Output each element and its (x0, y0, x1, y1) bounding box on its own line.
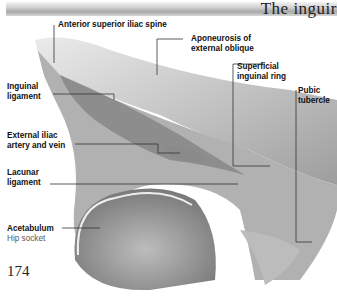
label-superficial-inguinal-ring: Superficial inguinal ring (237, 62, 286, 81)
label-lacunar-ligament: Lacunar ligament (7, 168, 41, 187)
label-text: Acetabulum (7, 224, 54, 233)
label-text: inguinal ring (237, 72, 286, 81)
label-subtext: Hip socket (7, 234, 54, 244)
label-text: Superficial (237, 62, 279, 71)
label-text: ligament (7, 92, 41, 101)
label-text: Aponeurosis of (191, 34, 251, 43)
label-text: tubercle (298, 96, 330, 105)
label-inguinal-ligament: Inguinal ligament (7, 82, 41, 101)
label-aponeurosis: Aponeurosis of external oblique (191, 34, 254, 53)
label-text: External iliac (7, 131, 58, 140)
label-text: artery and vein (7, 141, 65, 150)
label-text: Anterior superior iliac spine (58, 20, 167, 29)
label-anterior-superior-iliac-spine: Anterior superior iliac spine (58, 20, 167, 30)
label-text: ligament (7, 178, 41, 187)
label-text: Pubic (298, 86, 320, 95)
label-external-iliac-artery-vein: External iliac artery and vein (7, 131, 65, 150)
label-acetabulum: Acetabulum Hip socket (7, 224, 54, 243)
label-pubic-tubercle: Pubic tubercle (298, 86, 330, 105)
label-text: Inguinal (7, 82, 38, 91)
page-number: 174 (7, 263, 30, 280)
label-text: Lacunar (7, 168, 39, 177)
label-text: external oblique (191, 44, 254, 53)
